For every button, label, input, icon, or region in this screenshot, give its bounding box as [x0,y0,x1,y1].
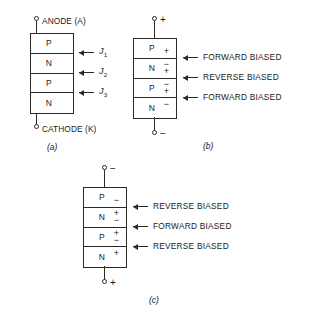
fig-a-layer-2-type: N [46,59,52,68]
fig-a-cathode-label: CATHODE (K) [42,125,96,133]
fig-a-layer-3: P [31,74,73,94]
fig-b-junction-2: REVERSE BIASED [183,73,279,82]
fig-b-junction-1-bias: FORWARD BIASED [203,53,282,61]
fig-b-layer-4: N − [134,98,176,118]
fig-a-layer-4: N [31,93,73,113]
left-arrow-icon [183,77,198,78]
fig-b-caption: (b) [203,142,213,151]
fig-b-layer-3: P − + [134,79,176,99]
left-arrow-icon [133,226,148,227]
fig-c-layer-1-bottom-sign: − [114,196,119,205]
fig-c-device-body: P − N + − P + − N + [83,187,127,268]
left-arrow-icon [183,57,198,58]
fig-b-bottom-terminal-circle [152,130,157,135]
fig-a-anode-lead [36,21,37,33]
fig-b-junction-2-bias: REVERSE BIASED [203,73,279,81]
fig-b-bottom-lead [154,117,155,131]
fig-b-layer-2-type: N [149,64,155,73]
fig-a-layer-4-type: N [46,99,52,108]
fig-b-top-lead [154,21,155,38]
fig-b-layer-4-type: N [149,104,155,113]
fig-c-junction-2-bias: FORWARD BIASED [153,222,232,230]
fig-b-layer-1-bottom-sign: + [164,47,169,56]
fig-c-junction-1-bias: REVERSE BIASED [153,202,229,210]
fig-b-layer-3-bottom-sign: + [164,87,169,96]
fig-c-top-polarity: − [110,164,116,174]
fig-a-device-body: P N P N [30,33,74,114]
fig-c-layer-4-top-sign: + [114,249,119,258]
fig-b-device-body: P + N − + P − + N − [133,38,177,119]
fig-a-layer-2: N [31,54,73,74]
fig-c-top-lead [104,170,105,187]
fig-a-layer-1-type: P [46,39,52,48]
fig-b-layer-1-type: P [149,44,155,53]
fig-c-layer-3-bottom-sign: − [114,236,119,245]
fig-c-bottom-terminal-circle [102,279,107,284]
fig-b-layer-4-top-sign: − [164,100,169,109]
fig-a-junction-3: J3 [79,88,107,97]
fig-b-junction-1: FORWARD BIASED [183,53,282,62]
fig-b-junction-3: FORWARD BIASED [183,93,282,102]
fig-b-top-polarity: + [160,15,166,25]
fig-c-layer-4-type: N [99,253,105,262]
fig-b-bottom-polarity: − [160,129,166,139]
fig-a-anode-label: ANODE (A) [42,17,86,25]
left-arrow-icon [79,72,94,73]
fig-b-layer-2: N − + [134,59,176,79]
fig-c-junction-3-bias: REVERSE BIASED [153,242,229,250]
fig-c-layer-4: N + [84,247,126,267]
fig-c-junction-1: REVERSE BIASED [133,202,229,211]
fig-c-bottom-polarity: + [110,278,116,288]
fig-c-layer-2: N + − [84,208,126,228]
fig-c-layer-2-bottom-sign: − [114,216,119,225]
fig-a-junction-1-label: J1 [99,47,107,58]
fig-a-junction-2-label: J2 [99,67,107,78]
fig-b-layer-3-type: P [149,84,155,93]
fig-a-junction-2: J2 [79,68,107,77]
fig-c-layer-3-type: P [99,233,105,242]
fig-a-layer-3-type: P [46,79,52,88]
fig-c-junction-2: FORWARD BIASED [133,222,232,231]
fig-c-caption: (c) [149,296,159,305]
fig-b-layer-1: P + [134,39,176,59]
fig-c-bottom-lead [104,266,105,280]
fig-b-layer-2-bottom-sign: + [164,67,169,76]
fig-c-layer-1-type: P [99,193,105,202]
fig-a-layer-1: P [31,34,73,54]
fig-c-layer-2-type: N [99,213,105,222]
left-arrow-icon [79,52,94,53]
fig-c-layer-3: P + − [84,228,126,248]
fig-a-caption: (a) [47,143,57,152]
fig-a-junction-1: J1 [79,48,107,57]
fig-a-cathode-terminal-circle [34,124,39,129]
left-arrow-icon [133,206,148,207]
fig-a-junction-3-label: J3 [99,87,107,98]
left-arrow-icon [183,97,198,98]
left-arrow-icon [133,246,148,247]
fig-c-layer-1: P − [84,188,126,208]
left-arrow-icon [79,92,94,93]
fig-b-junction-3-bias: FORWARD BIASED [203,93,282,101]
fig-c-junction-3: REVERSE BIASED [133,242,229,251]
